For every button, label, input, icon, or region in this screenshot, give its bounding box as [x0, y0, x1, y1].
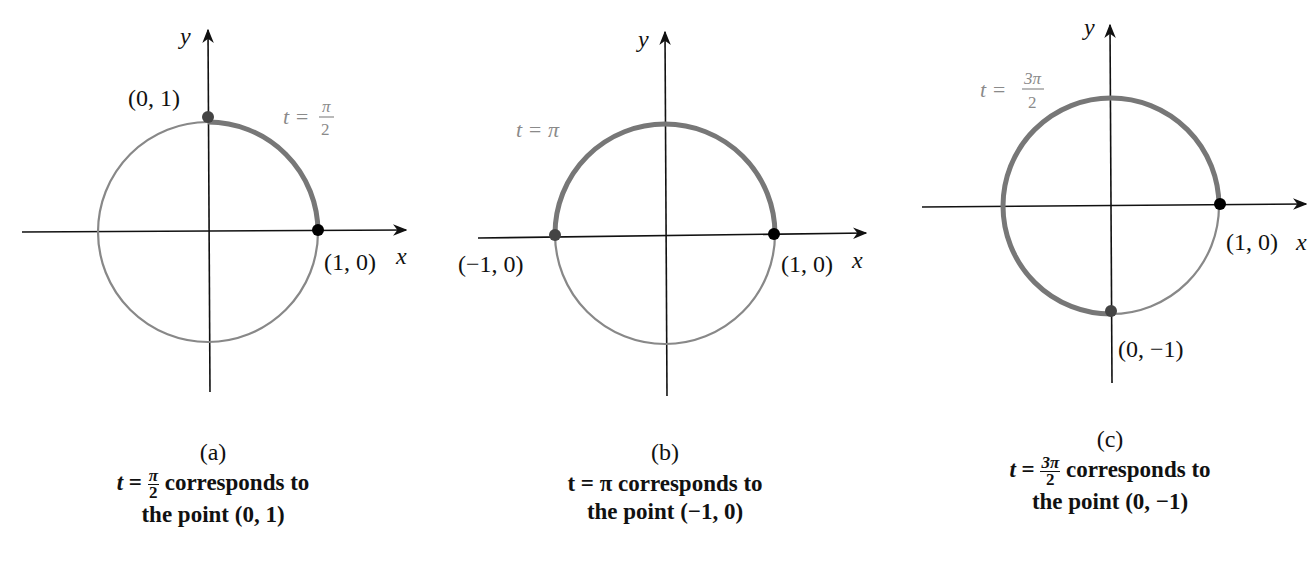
sub-label: (b)	[510, 438, 820, 466]
x-axis	[478, 233, 866, 238]
t-label: t = π	[516, 117, 560, 142]
caption-c: (c) t = 3π2 corresponds to the point (0,…	[950, 425, 1270, 516]
y-axis-label: y	[636, 26, 649, 52]
panel-b-graph	[478, 32, 866, 396]
caption-line2: the point (0, −1)	[950, 488, 1270, 516]
caption-text: corresponds to	[1060, 457, 1210, 482]
x-axis-label: x	[851, 247, 863, 273]
end-point-dot	[202, 111, 214, 123]
start-point-dot	[312, 224, 324, 236]
t-label-num: 3π	[1023, 69, 1042, 88]
x-axis	[922, 204, 1306, 207]
y-axis	[208, 30, 210, 392]
y-axis-label: y	[178, 23, 191, 49]
x-axis-label: x	[395, 243, 407, 269]
caption-eq: =	[1016, 457, 1041, 482]
caption-text: corresponds to	[159, 470, 309, 495]
caption-b: (b) t = π corresponds to the point (−1, …	[510, 438, 820, 526]
caption-line2: the point (0, 1)	[58, 501, 368, 529]
t-label-den: 2	[1028, 93, 1037, 112]
x-axis	[22, 230, 406, 232]
caption-line1: t = π2 corresponds to	[58, 468, 368, 501]
x-axis-label: x	[1295, 229, 1307, 255]
start-point-dot	[768, 228, 780, 240]
caption-eq: =	[123, 470, 148, 495]
start-point-label: (1, 0)	[1226, 229, 1278, 255]
start-point-label: (1, 0)	[781, 251, 833, 277]
panel-a-graph	[22, 30, 406, 392]
y-axis	[1110, 25, 1112, 383]
y-axis-label: y	[1082, 14, 1095, 40]
caption-line2: the point (−1, 0)	[510, 498, 820, 526]
t-label-prefix: t =	[283, 104, 309, 129]
end-point-label: (−1, 0)	[458, 251, 524, 277]
caption-fraction: π2	[148, 468, 159, 501]
end-point-label: (0, −1)	[1118, 336, 1184, 362]
t-label-den: 2	[321, 120, 330, 139]
end-point-dot	[1105, 305, 1117, 317]
t-label-prefix: t =	[980, 77, 1006, 102]
start-point-label: (1, 0)	[324, 249, 376, 275]
caption-a: (a) t = π2 corresponds to the point (0, …	[58, 438, 368, 529]
caption-line1: t = π corresponds to	[510, 470, 820, 498]
caption-fraction: 3π2	[1040, 455, 1060, 488]
arc-t-pi-over-2	[208, 122, 318, 232]
end-point-dot	[549, 229, 561, 241]
y-axis	[665, 32, 667, 396]
t-label-num: π	[322, 97, 331, 116]
end-point-label: (0, 1)	[128, 85, 180, 111]
sub-label: (c)	[950, 425, 1270, 453]
start-point-dot	[1214, 198, 1226, 210]
sub-label: (a)	[58, 438, 368, 466]
caption-line1: t = 3π2 corresponds to	[950, 455, 1270, 488]
